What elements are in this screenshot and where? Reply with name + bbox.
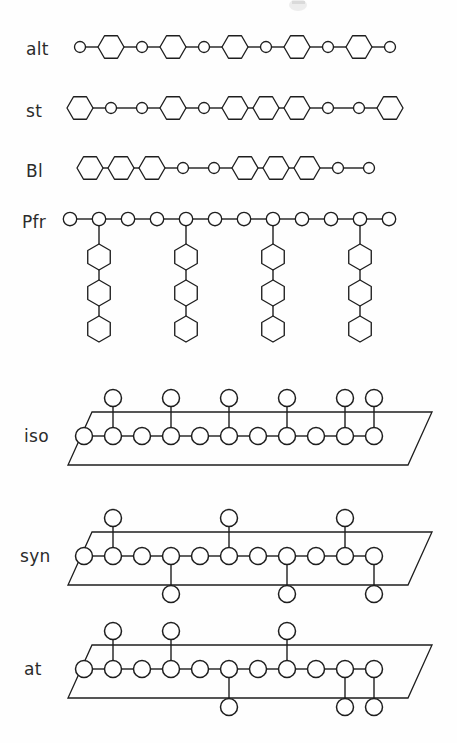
monomer-hexagon — [67, 97, 93, 120]
backbone-circle — [324, 212, 337, 225]
backbone-circle — [76, 548, 93, 565]
monomer-circle — [199, 103, 210, 114]
graft-hexagon — [349, 244, 372, 270]
row-label-pfr: Pfr — [22, 212, 46, 232]
pendant-circle-up — [105, 623, 122, 640]
backbone-circle — [163, 548, 180, 565]
monomer-hexagon — [232, 157, 258, 180]
backbone-circle — [76, 428, 93, 445]
backbone-circle — [163, 661, 180, 678]
pendant-circle-up — [163, 390, 180, 407]
graft-hexagon — [175, 244, 198, 270]
monomer-hexagon — [377, 97, 403, 120]
backbone-circle — [295, 212, 308, 225]
pendant-circle-down — [221, 699, 238, 716]
monomer-hexagon — [160, 97, 186, 120]
pendant-circle-down — [163, 586, 180, 603]
backbone-circle — [121, 212, 134, 225]
pendant-circle-up — [366, 390, 383, 407]
graft-hexagon — [88, 316, 111, 342]
backbone-circle — [221, 548, 238, 565]
monomer-circle — [209, 163, 220, 174]
backbone-circle — [250, 428, 267, 445]
row-label-iso: iso — [24, 426, 49, 446]
row-label-syn: syn — [20, 546, 51, 566]
polymer-architecture-figure: altstBlPfrisosynat — [0, 0, 457, 743]
monomer-circle — [75, 42, 86, 53]
monomer-circle — [261, 42, 272, 53]
graft-hexagon — [349, 280, 372, 306]
backbone-circle — [382, 212, 395, 225]
backbone-circle — [337, 548, 354, 565]
monomer-circle — [323, 103, 334, 114]
row-labels: altstBlPfrisosynat — [20, 39, 51, 679]
monomer-hexagon — [222, 97, 248, 120]
pendant-circle-down — [337, 699, 354, 716]
backbone-circle — [366, 428, 383, 445]
monomer-circle — [137, 42, 148, 53]
monomer-hexagon — [346, 36, 372, 59]
pendant-circle-down — [366, 699, 383, 716]
row-label-at: at — [24, 659, 42, 679]
backbone-circle — [353, 212, 366, 225]
graft-hexagon — [175, 280, 198, 306]
pendant-circle-up — [105, 390, 122, 407]
chain-row-syn — [68, 510, 432, 603]
monomer-circle — [364, 163, 375, 174]
monomer-circle — [106, 103, 117, 114]
backbone-circle — [308, 661, 325, 678]
monomer-hexagon — [294, 157, 320, 180]
backbone-circle — [192, 661, 209, 678]
backbone-circle — [221, 661, 238, 678]
pendant-circle-down — [366, 586, 383, 603]
backbone-circle — [134, 661, 151, 678]
monomer-hexagon — [77, 157, 103, 180]
pendant-circle-up — [279, 623, 296, 640]
monomer-circle — [137, 103, 148, 114]
backbone-circle — [105, 661, 122, 678]
monomer-hexagon — [160, 36, 186, 59]
monomer-hexagon — [98, 36, 124, 59]
graft-hexagon — [88, 244, 111, 270]
backbone-circle — [134, 548, 151, 565]
backbone-circle — [163, 428, 180, 445]
monomer-circle — [385, 42, 396, 53]
backbone-circle — [308, 428, 325, 445]
monomer-circle — [199, 42, 210, 53]
backbone-circle — [150, 212, 163, 225]
backbone-circle — [134, 428, 151, 445]
backbone-circle — [366, 548, 383, 565]
backbone-circle — [92, 212, 105, 225]
graft-hexagon — [349, 316, 372, 342]
monomer-circle — [323, 42, 334, 53]
pendant-circle-up — [337, 390, 354, 407]
backbone-circle — [76, 661, 93, 678]
chain-row-pfr — [63, 212, 395, 342]
monomer-hexagon — [253, 97, 279, 120]
backbone-circle — [179, 212, 192, 225]
chain-row-alt — [75, 36, 396, 59]
chain-row-at — [68, 623, 432, 716]
backbone-circle — [192, 548, 209, 565]
graft-hexagon — [175, 316, 198, 342]
graft-hexagon — [262, 316, 285, 342]
row-label-bl: Bl — [26, 161, 43, 181]
backbone-circle — [337, 661, 354, 678]
pendant-circle-down — [279, 586, 296, 603]
backbone-circle — [237, 212, 250, 225]
chain-row-iso — [68, 390, 432, 466]
monomer-circle — [178, 163, 189, 174]
backbone-circle — [105, 548, 122, 565]
backbone-circle — [279, 661, 296, 678]
scan-artifact — [289, 0, 307, 11]
pendant-circle-up — [221, 390, 238, 407]
pendant-circle-up — [279, 390, 296, 407]
backbone-circle — [337, 428, 354, 445]
chain-row-st — [67, 97, 403, 120]
backbone-circle — [279, 548, 296, 565]
figure-canvas: altstBlPfrisosynat — [0, 0, 457, 743]
monomer-hexagon — [108, 157, 134, 180]
chain-row-bl — [77, 157, 375, 180]
monomer-hexagon — [222, 36, 248, 59]
pendant-circle-up — [163, 623, 180, 640]
